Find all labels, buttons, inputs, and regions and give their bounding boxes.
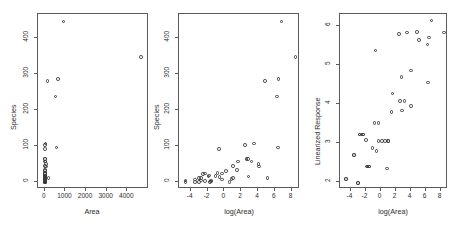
x-tick [365,188,366,191]
x-axis-title-2: log(Area) [224,208,254,215]
data-point [216,171,220,175]
y-tick [336,142,339,143]
plot-area-2 [178,13,299,188]
y-tick [336,64,339,65]
data-point [386,139,390,143]
y-tick-label: 3 [325,134,332,148]
panel-logarea-vs-species: Species log(Area) -4-2024680100200300400 [153,0,305,231]
x-tick [440,188,441,191]
data-point [43,180,47,184]
data-point [400,109,404,113]
x-axis-title-3: log(Area) [378,208,408,215]
x-tick-label: 2000 [78,193,92,200]
x-axis-title-1: Area [84,208,99,215]
data-point [400,75,404,79]
y-tick [34,37,37,38]
data-point [403,99,407,103]
x-tick-label: 2 [393,193,397,200]
y-tick [336,103,339,104]
figure-container: Species Area 010002000300040000100200300… [0,0,458,231]
panel-logarea-vs-linearized-response: Linearized Response log(Area) -4-2024682… [306,0,458,231]
data-point [371,146,375,150]
x-tick-label: 0 [42,193,46,200]
data-point [62,20,66,24]
data-point [280,20,284,24]
x-tick [274,188,275,191]
x-tick [64,188,65,191]
x-tick-label: 0 [378,193,382,200]
data-point [47,176,51,180]
x-tick-label: 2 [238,193,242,200]
data-point [54,95,58,99]
data-point [250,160,254,164]
x-tick [395,188,396,191]
data-point [390,110,394,114]
x-tick-label: 0 [222,193,226,200]
x-tick [223,188,224,191]
y-tick-label: 400 [164,29,171,43]
x-tick [207,188,208,191]
data-point [427,36,431,40]
x-tick [410,188,411,191]
data-point [377,121,381,125]
x-tick-label: 6 [272,193,276,200]
x-tick-label: -4 [187,193,193,200]
data-point [245,157,249,161]
data-point [193,180,197,184]
data-point [236,160,240,164]
data-point [43,164,47,168]
data-point [373,121,377,125]
data-point [231,176,235,180]
x-tick [44,188,45,191]
y-tick-label: 200 [164,101,171,115]
data-point [409,104,413,108]
plot-area-1 [37,13,148,188]
x-tick [190,188,191,191]
y-tick [34,109,37,110]
y-tick-label: 0 [164,174,171,188]
y-tick [175,145,178,146]
x-tick [380,188,381,191]
x-tick-label: 4 [255,193,259,200]
x-tick [85,188,86,191]
data-point [361,133,365,137]
data-point [43,157,47,161]
x-tick-label: 8 [289,193,293,200]
y-tick-label: 300 [23,65,30,79]
y-tick-label: 6 [325,18,332,32]
scatter-points-1 [38,14,147,187]
data-point [252,142,256,146]
data-point [409,69,413,73]
x-tick [126,188,127,191]
data-point [46,79,50,83]
data-point [235,168,239,172]
x-tick-label: 3000 [98,193,112,200]
data-point [430,19,434,23]
scatter-points-2 [179,14,298,187]
x-tick [350,188,351,191]
data-point [203,179,207,183]
x-tick [425,188,426,191]
y-tick [336,181,339,182]
x-tick-label: 4000 [119,193,133,200]
data-point [405,31,409,35]
y-tick-label: 2 [325,173,332,187]
data-point [426,81,430,85]
data-point [385,167,389,171]
data-point [266,176,270,180]
data-point [294,55,298,59]
data-point [417,38,421,42]
x-tick-label: -2 [362,193,368,200]
plot-area-3 [339,13,447,188]
data-point [365,165,369,169]
data-point [55,146,59,150]
y-tick-label: 5 [325,57,332,71]
y-tick-label: 300 [164,65,171,79]
x-tick-label: 8 [438,193,442,200]
data-point [243,143,247,147]
data-point [43,174,47,178]
y-tick-label: 400 [23,29,30,43]
x-tick-label: 6 [423,193,427,200]
data-point [257,165,261,169]
x-tick [106,188,107,191]
